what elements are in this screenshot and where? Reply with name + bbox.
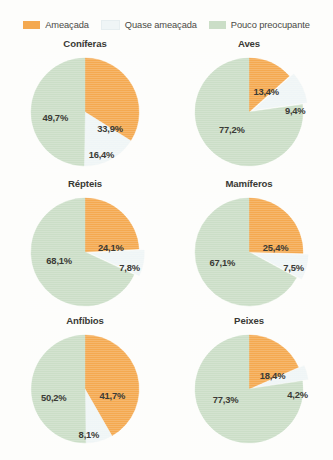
- chart-title: Coníferas: [2, 38, 168, 49]
- pie-slice-label: 13,4%: [253, 85, 279, 96]
- pie-slice-label: 68,1%: [46, 254, 72, 265]
- pie-chart-grid: Coníferas33,9%16,4%49,7%Aves13,4%9,4%77,…: [0, 34, 333, 460]
- legend-item: Pouco preocupante: [209, 20, 310, 30]
- pie-chart: 33,9%16,4%49,7%: [25, 52, 145, 172]
- chart-title: Aves: [166, 38, 332, 49]
- pie-slice-label: 8,1%: [79, 428, 100, 439]
- legend: AmeaçadaQuase ameaçadaPouco preocupante: [0, 14, 333, 36]
- pie-chart-cell: Anfíbios41,7%8,1%50,2%: [2, 311, 168, 453]
- legend-item-label: Quase ameaçada: [125, 20, 197, 30]
- pie-chart: 25,4%7,5%67,1%: [189, 192, 309, 312]
- chart-title: Anfíbios: [2, 315, 168, 326]
- legend-swatch-icon: [23, 21, 40, 29]
- pie-slice-label: 49,7%: [42, 112, 68, 123]
- chart-title: Mamíferos: [166, 178, 332, 189]
- pie-slice-label: 18,4%: [260, 369, 286, 380]
- pie-chart-cell: Aves13,4%9,4%77,2%: [166, 34, 332, 176]
- pie-chart-cell: Coníferas33,9%16,4%49,7%: [2, 34, 168, 176]
- pie-chart: 41,7%8,1%50,2%: [25, 329, 145, 449]
- pie-chart-cell: Répteis24,1%7,8%68,1%: [2, 174, 168, 316]
- legend-item-label: Ameaçada: [45, 20, 89, 30]
- pie-chart-cell: Peixes18,4%4,2%77,3%: [166, 311, 332, 453]
- pie-chart-cell: Mamíferos25,4%7,5%67,1%: [166, 174, 332, 316]
- pie-slice-label: 50,2%: [41, 391, 67, 402]
- pie-slice: [31, 335, 85, 443]
- pie-slice-label: 16,4%: [89, 149, 115, 160]
- legend-swatch-icon: [209, 21, 226, 29]
- pie-chart: 24,1%7,8%68,1%: [25, 192, 145, 312]
- pie-slice-label: 77,2%: [219, 124, 245, 135]
- legend-item-label: Pouco preocupante: [231, 20, 310, 30]
- pie-slice-label: 9,4%: [285, 105, 306, 116]
- legend-item: Quase ameaçada: [101, 20, 197, 30]
- pie-chart: 18,4%4,2%77,3%: [189, 329, 309, 449]
- pie-slice-label: 4,2%: [287, 389, 308, 400]
- pie-chart: 13,4%9,4%77,2%: [189, 52, 309, 172]
- pie-slice-label: 7,8%: [119, 261, 140, 272]
- pie-slice-label: 25,4%: [263, 241, 289, 252]
- legend-swatch-icon: [101, 20, 120, 30]
- pie-slice-label: 7,5%: [283, 261, 304, 272]
- pie-slice-label: 77,3%: [213, 393, 239, 404]
- chart-title: Répteis: [2, 178, 168, 189]
- legend-item: Ameaçada: [23, 20, 89, 30]
- pie-slice-label: 24,1%: [98, 241, 124, 252]
- pie-slice-label: 33,9%: [97, 123, 123, 134]
- pie-slice-label: 67,1%: [210, 256, 236, 267]
- pie-slice-label: 41,7%: [100, 390, 126, 401]
- chart-title: Peixes: [166, 315, 332, 326]
